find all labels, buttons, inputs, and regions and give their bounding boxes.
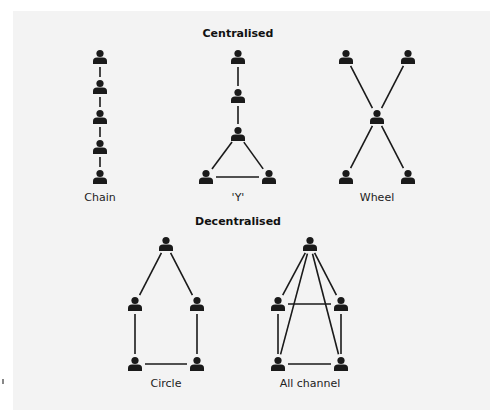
network-label-circle: Circle (151, 377, 182, 390)
connection-line (382, 126, 404, 168)
person-icon (334, 357, 348, 371)
person-icon (128, 297, 142, 311)
section-title-centralised: Centralised (203, 27, 274, 40)
network-label-wheel: Wheel (360, 191, 394, 204)
person-icon (334, 297, 348, 311)
person-icon (303, 237, 317, 251)
section-title-decentralised: Decentralised (195, 215, 281, 228)
network-diagrams (0, 0, 503, 416)
person-icon (199, 170, 213, 184)
person-icon (271, 297, 285, 311)
network-label-y: 'Y' (232, 191, 245, 204)
connection-line (212, 142, 232, 169)
person-icon (93, 110, 107, 124)
person-icon (339, 50, 353, 64)
person-icon (190, 357, 204, 371)
connection-line (351, 66, 373, 108)
connection-line (244, 142, 263, 169)
person-icon (190, 297, 204, 311)
person-icon (339, 170, 353, 184)
person-icon (231, 127, 245, 141)
person-icon (93, 80, 107, 94)
person-icon (262, 170, 276, 184)
network-label-all-channel: All channel (280, 377, 341, 390)
person-icon (159, 237, 173, 251)
network-label-chain: Chain (84, 191, 115, 204)
person-icon (93, 50, 107, 64)
person-icon (401, 50, 415, 64)
connection-line (382, 66, 404, 108)
connection-line (140, 253, 162, 295)
person-icon (231, 89, 245, 103)
connection-line (351, 126, 373, 168)
person-icon (401, 170, 415, 184)
person-icon (93, 140, 107, 154)
person-icon (93, 170, 107, 184)
person-icon (128, 357, 142, 371)
person-icon (231, 50, 245, 64)
person-icon (370, 110, 384, 124)
person-icon (271, 357, 285, 371)
connection-line (171, 253, 193, 295)
